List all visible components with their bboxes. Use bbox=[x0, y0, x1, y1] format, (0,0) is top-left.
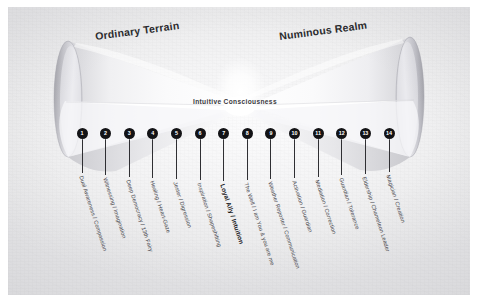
node-stem-2 bbox=[105, 139, 106, 175]
node-stem-7 bbox=[223, 139, 224, 181]
node-stem-14 bbox=[389, 139, 390, 172]
node-stem-3 bbox=[129, 139, 130, 177]
node-marker-10[interactable]: 10 bbox=[289, 128, 300, 139]
node-stem-6 bbox=[200, 139, 201, 180]
double-cone-illustration bbox=[8, 7, 470, 295]
node-stem-12 bbox=[341, 139, 342, 175]
node-stem-1 bbox=[82, 139, 83, 173]
node-marker-1[interactable]: 1 bbox=[77, 128, 88, 139]
cone-stage: Ordinary Terrain Numinous Realm Intuitiv… bbox=[8, 7, 470, 295]
diagram-page: Ordinary Terrain Numinous Realm Intuitiv… bbox=[0, 0, 478, 302]
node-stem-10 bbox=[294, 139, 295, 178]
node-marker-6[interactable]: 6 bbox=[195, 128, 206, 139]
node-stem-9 bbox=[270, 139, 271, 179]
node-marker-5[interactable]: 5 bbox=[171, 128, 182, 139]
node-stem-5 bbox=[176, 139, 177, 179]
node-stem-8 bbox=[247, 139, 248, 180]
center-axis-label: Intuitive Consciousness bbox=[193, 98, 277, 105]
node-marker-14[interactable]: 14 bbox=[384, 128, 395, 139]
node-marker-13[interactable]: 13 bbox=[360, 128, 371, 139]
paper-canvas: Ordinary Terrain Numinous Realm Intuitiv… bbox=[8, 7, 470, 295]
node-marker-8[interactable]: 8 bbox=[242, 128, 253, 139]
node-stem-4 bbox=[152, 139, 153, 178]
node-marker-11[interactable]: 11 bbox=[313, 128, 324, 139]
node-stem-11 bbox=[318, 139, 319, 177]
node-stem-13 bbox=[365, 139, 366, 174]
node-marker-3[interactable]: 3 bbox=[124, 128, 135, 139]
